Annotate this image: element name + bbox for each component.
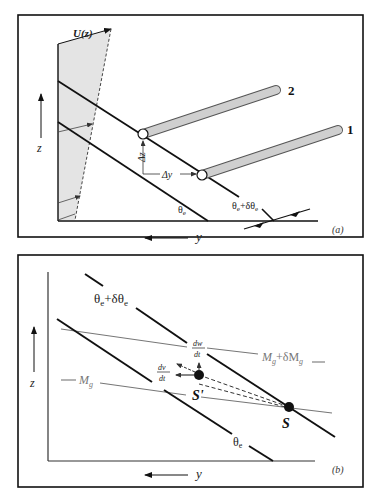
dv-denominator: dt bbox=[159, 374, 166, 383]
wind-label: U(z) bbox=[73, 27, 93, 40]
mg-upper-line-right bbox=[207, 348, 258, 354]
wind-shear-shading bbox=[58, 29, 111, 220]
parcel-1-origin bbox=[197, 170, 207, 180]
delta-z-label: Δz bbox=[136, 152, 147, 163]
y-axis-label: y bbox=[194, 466, 202, 481]
isentrope-upper-seg-2 bbox=[136, 308, 187, 343]
panel-b: S' S dw dt dv dt θe+δθe θe Mg+δMg Mg z y… bbox=[18, 255, 363, 487]
isentrope-upper-seg-3 bbox=[207, 354, 335, 437]
panel-b-tag: (b) bbox=[332, 464, 344, 476]
z-axis-label: z bbox=[29, 376, 35, 390]
tube-1 bbox=[197, 130, 338, 180]
isentrope-upper-label: θe+δθe bbox=[94, 291, 128, 308]
y-axis-label: y bbox=[194, 229, 202, 244]
z-axis-label: z bbox=[36, 141, 42, 155]
panel-b-frame bbox=[18, 255, 363, 487]
panel-a-tag: (a) bbox=[332, 224, 344, 236]
isentrope-upper-seg-1 bbox=[85, 274, 103, 286]
tube-2 bbox=[138, 90, 276, 139]
displacement-path-lower bbox=[199, 384, 289, 408]
mg-lower-label: Mg bbox=[78, 373, 93, 389]
dv-dt-fraction: dv dt bbox=[157, 363, 170, 383]
tube-2-label: 2 bbox=[288, 83, 295, 98]
total-acceleration-arrow bbox=[177, 364, 195, 372]
mg-upper-label: Mg+δMg bbox=[261, 350, 303, 366]
parcel-2-origin bbox=[138, 129, 148, 139]
dw-numerator: dw bbox=[193, 339, 203, 348]
dw-denominator: dt bbox=[194, 350, 201, 359]
figure-canvas: U(z) 2 1 Δz Δy θe θe+δθe bbox=[0, 0, 383, 499]
isentrope-lower-label: θe bbox=[233, 435, 243, 450]
mg-lower-line-left bbox=[100, 383, 186, 395]
point-s-prime bbox=[194, 370, 204, 380]
mg-upper-line-left bbox=[61, 329, 187, 347]
front-line bbox=[244, 209, 310, 229]
isentrope-upper-ground-segment bbox=[262, 209, 274, 221]
delta-y-label: Δy bbox=[161, 169, 173, 180]
dv-numerator: dv bbox=[158, 363, 166, 372]
point-s-label: S bbox=[282, 416, 290, 431]
isentrope-lower-seg-1 bbox=[57, 319, 152, 382]
isentrope-lower-seg-3 bbox=[249, 446, 273, 461]
point-s-prime-label: S' bbox=[192, 388, 204, 403]
point-s bbox=[284, 402, 294, 412]
dw-dt-fraction: dw dt bbox=[192, 339, 205, 359]
panel-a: U(z) 2 1 Δz Δy θe θe+δθe bbox=[18, 15, 363, 244]
tube-1-label: 1 bbox=[347, 122, 354, 137]
isentrope-upper-label: θe+δθe bbox=[232, 200, 258, 213]
